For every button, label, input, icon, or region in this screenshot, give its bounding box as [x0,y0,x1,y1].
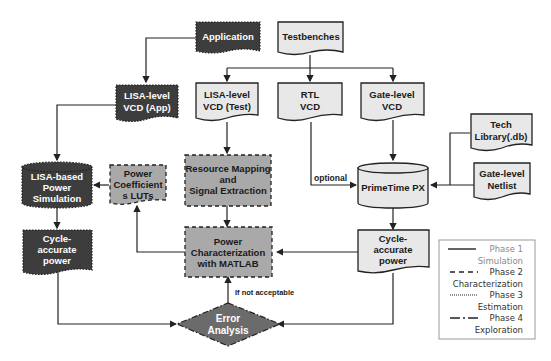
cycle-power-right-line2: accurate [373,244,412,255]
power-char-line1: Power [214,236,243,247]
gate-netlist-line1: Gate-level [479,168,524,179]
application-label: Application [202,31,254,42]
gate-netlist-line2: Netlist [487,180,517,191]
resource-mapping-line1: Resource Mapping [186,163,271,174]
power-char-line3: with MATLAB [196,258,258,269]
error-analysis-line1: Error [216,313,241,324]
node-lisa-power-sim: LISA-based Power Simulation [22,162,92,208]
legend-phase-3: Phase 3 [490,290,524,300]
edge-app-to-lisa-vcd-app [146,38,196,82]
legend-phase-3-name: Estimation [478,302,523,312]
lisa-power-sim-line2: Power [43,182,72,193]
node-cycle-power-right: Cycle- accurate power [358,230,429,273]
edge-char-to-luts [137,206,185,252]
if-not-acceptable-label: If not acceptable [235,288,294,297]
cycle-power-right-line3: power [379,255,407,266]
cycle-power-right-line1: Cycle- [379,233,408,244]
resource-mapping-line3: Signal Extraction [189,185,267,196]
flow-diagram: Application Testbenches LISA-level VCD (… [0,0,551,361]
legend-phase-2: Phase 2 [490,267,524,277]
lisa-vcd-app-line1: LISA-level [124,90,170,101]
node-primetime: PrimeTime PX [358,163,428,208]
cycle-power-left-line3: power [43,255,71,266]
legend: Phase 1 Simulation Phase 2 Characterizat… [439,240,535,339]
lisa-vcd-app-line2: VCD (App) [123,102,171,113]
error-analysis-line2: Analysis [207,325,249,336]
edge-cycle-left-to-error [58,272,176,324]
gate-vcd-line1: Gate-level [369,89,414,100]
node-gate-vcd: Gate-level VCD [361,83,424,121]
rtl-vcd-line1: RTL [301,89,320,100]
legend-phase-2-name: Characterization [453,279,523,289]
legend-phase-4: Phase 4 [490,313,524,323]
node-power-characterization: Power Characterization with MATLAB [185,227,272,277]
testbenches-label: Testbenches [282,31,339,42]
cycle-power-left-line2: accurate [37,244,76,255]
lisa-power-sim-line1: LISA-based [31,171,83,182]
gate-vcd-line2: VCD [382,101,402,112]
node-cycle-power-left: Cycle- accurate power [23,230,92,275]
node-testbenches: Testbenches [278,22,343,55]
node-power-luts: Power Coefficient s LUTs [110,165,166,204]
rtl-vcd-line2: VCD [300,101,320,112]
node-rtl-vcd: RTL VCD [278,83,342,121]
primetime-label: PrimeTime PX [361,182,425,193]
optional-label: optional [314,173,347,183]
power-char-line2: Characterization [191,247,266,258]
node-tech-library: Tech Library(.db) [471,114,532,151]
node-gate-netlist: Gate-level Netlist [474,163,530,200]
legend-phase-1-name: Simulation [478,256,523,266]
legend-phase-1: Phase 1 [490,244,524,254]
lisa-vcd-test-line2: VCD (Test) [203,101,251,112]
legend-phase-4-name: Exploration [475,325,523,335]
tech-library-line2: Library(.db) [475,131,528,142]
edge-cycle-right-to-error [278,273,393,324]
node-resource-mapping: Resource Mapping and Signal Extraction [185,155,271,206]
lisa-vcd-test-line1: LISA-level [204,89,250,100]
node-lisa-vcd-test: LISA-level VCD (Test) [196,83,258,121]
cycle-power-left-line1: Cycle- [43,233,72,244]
edge-tech-lib [450,133,470,185]
power-luts-line3: s LUTs [123,190,154,201]
power-luts-line2: Coefficient [113,179,163,190]
edge-lisa-vcd-app-to-power-sim [57,105,116,160]
resource-mapping-line2: and [220,174,237,185]
power-luts-line1: Power [124,168,153,179]
node-application: Application [196,22,260,53]
node-lisa-vcd-app: LISA-level VCD (App) [116,85,178,122]
node-error-analysis: Error Analysis [177,303,280,346]
tech-library-line1: Tech [490,119,512,130]
lisa-power-sim-line3: Simulation [33,193,82,204]
